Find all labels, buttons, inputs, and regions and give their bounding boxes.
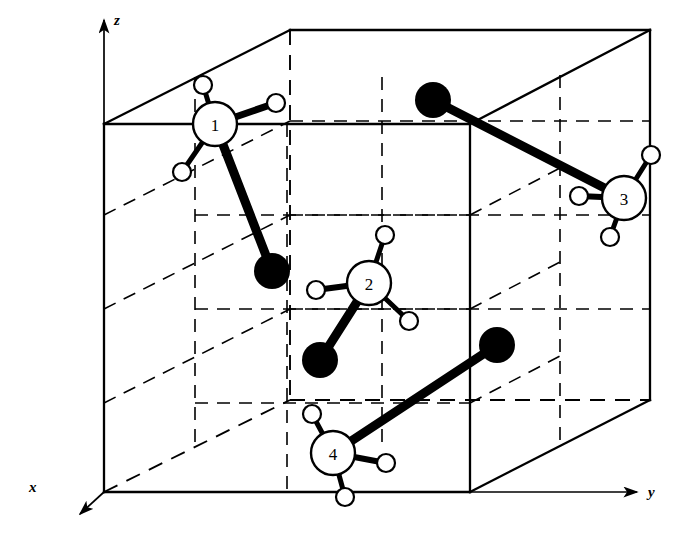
x-axis-label: x [28,479,37,495]
y-axis-label: y [646,484,655,500]
grid-line-right-depth-mid [470,262,560,309]
numbered-atom-2-label: 2 [365,275,374,294]
hidden-edge-bottom-left-depth [104,400,290,492]
numbered-atom-1-label: 1 [211,116,220,135]
ligand-atom-1a[interactable] [194,76,212,94]
unit-cell-diagram: z y x 1 [0,0,673,549]
ligand-atom-4a[interactable] [303,405,321,423]
ligand-atom-3a[interactable] [642,146,660,164]
solid-atom-3[interactable] [415,82,451,118]
numbered-atom-4-label: 4 [329,445,338,464]
grid-line-right-depth-lower [470,356,560,403]
solid-atom-4[interactable] [479,327,515,363]
solid-atom-1[interactable] [254,253,290,289]
ligand-atom-4c[interactable] [336,488,354,506]
z-axis-label: z [113,12,120,28]
ligand-atom-2b[interactable] [307,281,325,299]
ligand-atom-4b[interactable] [377,454,395,472]
grid-line-right-depth-upper [470,168,560,215]
bond-4-to-solid-atom [333,345,497,453]
x-axis-line [80,492,104,514]
ligand-atom-1c[interactable] [173,163,191,181]
molecule-1[interactable]: 1 [173,76,290,289]
ligand-atom-3b[interactable] [570,187,588,205]
ligand-atom-2a[interactable] [376,226,394,244]
numbered-atom-3-label: 3 [620,190,629,209]
unit-cell-figure: z y x 1 [0,0,673,549]
bond-3-to-solid-atom [433,100,624,198]
molecule-2[interactable]: 2 [302,226,418,378]
ligand-atom-2c[interactable] [400,312,418,330]
molecule-3[interactable]: 3 [415,82,660,246]
ligand-atom-1b[interactable] [267,94,285,112]
solid-atom-2[interactable] [302,342,338,378]
ligand-atom-3c[interactable] [601,228,619,246]
grid-line-depth-lower [104,309,290,403]
